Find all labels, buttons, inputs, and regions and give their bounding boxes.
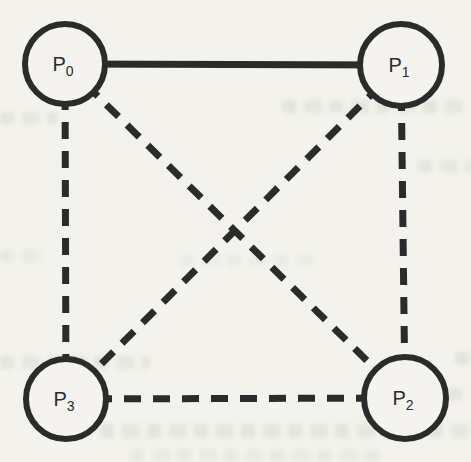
graph-svg: P0P1P2P3 [0, 0, 471, 462]
scanned-page: P0P1P2P3 [0, 0, 471, 462]
node-label-main: P [388, 54, 401, 76]
edge-P0-P3-dashed [65, 64, 66, 399]
edge-P0-P1-solid [65, 64, 401, 65]
node-label-subscript: 3 [67, 398, 75, 414]
node-label-main: P [53, 388, 66, 410]
node-label-main: P [52, 53, 65, 75]
node-label-subscript: 0 [66, 63, 74, 79]
edge-P3-P2-dashed [66, 398, 405, 399]
node-label-main: P [392, 387, 405, 409]
node-label-subscript: 1 [402, 64, 410, 80]
node-label-subscript: 2 [406, 397, 414, 413]
edge-P1-P2-dashed [401, 65, 405, 398]
